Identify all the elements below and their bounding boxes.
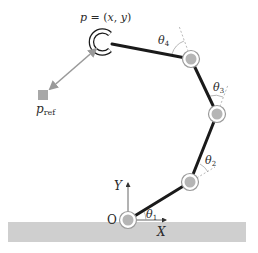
joint-2 — [182, 174, 199, 191]
manipulator-diagram: Y X — [0, 0, 258, 253]
link-2 — [190, 114, 217, 182]
error-vector-arrow — [50, 49, 96, 89]
origin-label: O — [107, 213, 117, 227]
joint-1 — [120, 212, 137, 229]
link-1 — [128, 182, 190, 220]
theta2-label: θ2 — [205, 154, 216, 168]
theta4-label: θ4 — [158, 34, 170, 48]
x-axis-label: X — [156, 225, 166, 239]
y-axis-label: Y — [114, 179, 123, 193]
reference-point-marker — [38, 90, 48, 100]
theta1-label: θ1 — [146, 208, 157, 222]
link-4 — [112, 44, 191, 59]
joint-3 — [209, 106, 226, 123]
end-effector-label: p = (x, y) — [80, 11, 131, 24]
joint-4 — [183, 51, 200, 68]
robot-joints — [120, 51, 226, 229]
theta3-label: θ3 — [213, 81, 224, 95]
angle-reference-lines — [179, 26, 228, 182]
reference-label: pref — [36, 102, 56, 117]
